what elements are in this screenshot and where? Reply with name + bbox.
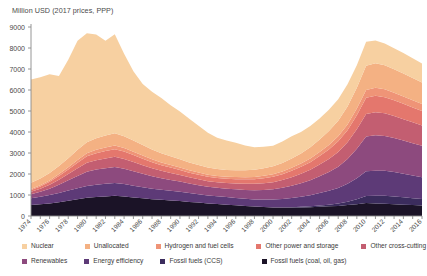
x-axis-tick-label: 1974 <box>16 218 32 234</box>
x-axis-tick-label: 2002 <box>277 218 293 234</box>
x-axis-tick-label: 1988 <box>147 218 163 234</box>
legend-row-primary: NuclearUnallocatedHydrogen and fuel cell… <box>0 239 427 254</box>
legend-row-secondary: RenewablesEnergy efficiencyFossil fuels … <box>0 254 427 269</box>
legend-item[interactable]: Energy efficiency <box>84 258 143 265</box>
legend-swatch <box>361 244 366 249</box>
legend-label: Energy efficiency <box>93 258 143 265</box>
legend-item[interactable]: Other power and storage <box>256 243 338 250</box>
x-axis: 1974197619781980198219841986198819901992… <box>16 216 423 233</box>
y-axis-tick-label: 5000 <box>9 108 25 115</box>
legend-swatch <box>160 259 165 264</box>
legend-item[interactable]: Fossil fuels (CCS) <box>160 258 222 265</box>
chart-legend: NuclearUnallocatedHydrogen and fuel cell… <box>0 239 427 269</box>
x-axis-tick-label: 1986 <box>128 218 144 234</box>
legend-label: Other power and storage <box>265 243 338 250</box>
legend-label: Hydrogen and fuel cells <box>165 243 234 250</box>
x-axis-tick-label: 2016 <box>407 218 423 234</box>
stacked-area-chart: Million USD (2017 prices, PPP) 010002000… <box>0 0 427 276</box>
plot-area: 0100020003000400050006000700080009000 19… <box>0 0 427 240</box>
x-axis-tick-label: 1980 <box>72 218 88 234</box>
x-axis-tick-label: 2006 <box>314 218 330 234</box>
legend-swatch <box>84 259 89 264</box>
legend-item[interactable]: Nuclear <box>22 243 54 250</box>
y-axis-tick-label: 8000 <box>9 45 25 52</box>
legend-item[interactable]: Unallocated <box>85 243 129 250</box>
x-axis-tick-label: 2014 <box>389 218 405 234</box>
legend-label: Renewables <box>31 258 67 265</box>
legend-item[interactable]: Other cross-cutting <box>361 243 426 250</box>
y-axis-tick-label: 0 <box>21 213 25 220</box>
x-axis-tick-label: 2004 <box>296 218 312 234</box>
x-axis-tick-label: 1984 <box>109 218 125 234</box>
legend-label: Fossil fuels (CCS) <box>169 258 222 265</box>
legend-item[interactable]: Fossil fuels (coal, oil, gas) <box>262 258 347 265</box>
y-axis-tick-label: 4000 <box>9 129 25 136</box>
y-axis-tick-label: 7000 <box>9 66 25 73</box>
y-axis-tick-label: 6000 <box>9 87 25 94</box>
legend-item[interactable]: Renewables <box>22 258 67 265</box>
y-axis-tick-label: 2000 <box>9 171 25 178</box>
x-axis-tick-label: 2010 <box>352 218 368 234</box>
x-axis-tick-label: 2012 <box>370 218 386 234</box>
area-layers <box>31 33 422 216</box>
legend-label: Fossil fuels (coal, oil, gas) <box>271 258 347 265</box>
x-axis-tick-label: 1978 <box>54 218 70 234</box>
y-axis-tick-label: 3000 <box>9 150 25 157</box>
legend-label: Other cross-cutting <box>370 243 426 250</box>
y-axis: 0100020003000400050006000700080009000 <box>9 24 31 220</box>
x-axis-tick-label: 1990 <box>165 218 181 234</box>
x-axis-tick-label: 1996 <box>221 218 237 234</box>
legend-swatch <box>256 244 261 249</box>
legend-label: Unallocated <box>94 243 129 250</box>
x-axis-tick-label: 1992 <box>184 218 200 234</box>
x-axis-tick-label: 1976 <box>35 218 51 234</box>
x-axis-tick-label: 2008 <box>333 218 349 234</box>
legend-swatch <box>262 259 267 264</box>
legend-label: Nuclear <box>31 243 54 250</box>
y-axis-tick-label: 1000 <box>9 192 25 199</box>
legend-swatch <box>22 259 27 264</box>
legend-swatch <box>85 244 90 249</box>
legend-swatch <box>22 244 27 249</box>
x-axis-tick-label: 1998 <box>240 218 256 234</box>
x-axis-tick-label: 2000 <box>258 218 274 234</box>
x-axis-tick-label: 1982 <box>91 218 107 234</box>
x-axis-tick-label: 1994 <box>203 218 219 234</box>
legend-swatch <box>156 244 161 249</box>
legend-item[interactable]: Hydrogen and fuel cells <box>156 243 234 250</box>
y-axis-tick-label: 9000 <box>9 24 25 31</box>
